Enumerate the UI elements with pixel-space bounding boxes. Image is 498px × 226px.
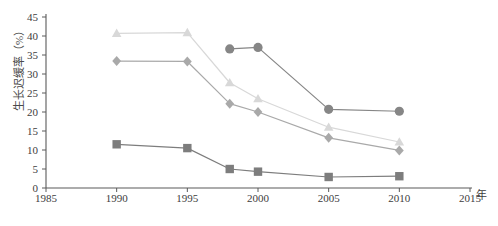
data-point-diamond — [324, 133, 333, 143]
data-point-diamond — [254, 107, 263, 117]
data-point-triangle — [183, 28, 193, 36]
x-tick-label: 2010 — [388, 192, 410, 204]
y-tick-label: 40 — [16, 30, 38, 42]
data-point-square — [183, 144, 191, 152]
chart-container: 生长迟缓率（%） 051015202530354045 198519901995… — [0, 0, 498, 226]
series-group-circle — [225, 43, 404, 116]
x-tick-label: 1995 — [176, 192, 198, 204]
y-tick-label: 35 — [16, 49, 38, 61]
data-point-circle — [395, 107, 404, 116]
series-line-diamond — [117, 61, 400, 150]
x-tick-label: 1985 — [35, 192, 57, 204]
data-point-circle — [324, 105, 333, 114]
data-point-triangle — [324, 122, 334, 130]
y-tick-label: 20 — [16, 106, 38, 118]
x-axis-unit-label: 年 — [476, 186, 487, 202]
data-point-circle — [253, 43, 262, 52]
data-point-triangle — [253, 94, 263, 102]
y-tick-label: 25 — [16, 87, 38, 99]
y-tick-label: 15 — [16, 125, 38, 137]
x-tick-label: 1990 — [106, 192, 128, 204]
data-point-square — [226, 165, 234, 173]
x-tick-label: 2005 — [318, 192, 340, 204]
y-tick-label: 30 — [16, 68, 38, 80]
series-group-square — [112, 140, 403, 181]
data-point-diamond — [112, 56, 121, 66]
y-tick-label: 5 — [16, 163, 38, 175]
x-tick-label: 2000 — [247, 192, 269, 204]
data-point-square — [395, 172, 403, 180]
series-group-diamond — [112, 56, 403, 155]
data-point-circle — [225, 44, 234, 53]
y-tick-label: 45 — [16, 11, 38, 23]
data-point-square — [254, 167, 262, 175]
y-tick-label: 10 — [16, 144, 38, 156]
data-point-square — [324, 173, 332, 181]
data-point-square — [112, 140, 120, 148]
data-point-diamond — [395, 145, 404, 155]
